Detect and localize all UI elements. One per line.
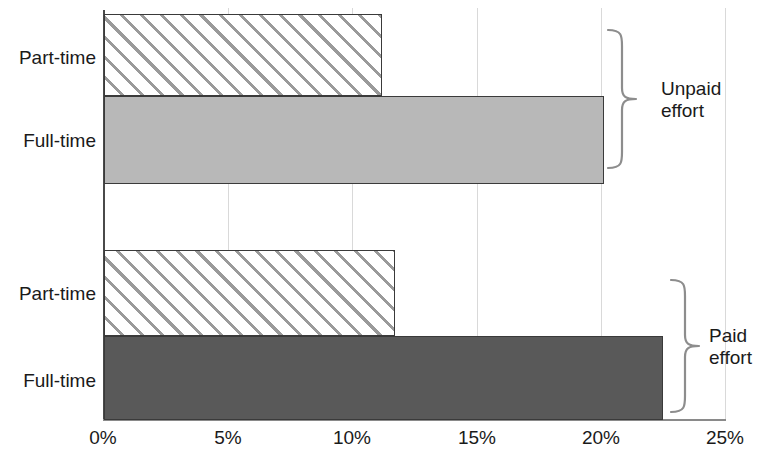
bar-chart: Part-time Full-time Part-time Full-time … <box>0 0 771 467</box>
group-label-unpaid-line1: Unpaid <box>661 78 721 100</box>
group-label-unpaid-effort: Unpaid effort <box>661 78 721 123</box>
brace-paid-effort <box>669 278 713 418</box>
group-label-paid-line1: Paid <box>709 325 752 347</box>
x-tick-label-5: 5% <box>193 428 263 447</box>
group-label-unpaid-line2: effort <box>661 100 721 122</box>
category-label-unpaid-full-time: Full-time <box>0 131 96 150</box>
bar-unpaid-full-time <box>104 96 604 184</box>
bar-paid-full-time <box>104 336 663 420</box>
group-label-paid-effort: Paid effort <box>709 325 752 370</box>
x-tick-label-25: 25% <box>690 428 760 447</box>
brace-unpaid-effort <box>606 28 650 174</box>
x-tick-label-20: 20% <box>566 428 636 447</box>
bar-unpaid-part-time <box>104 14 382 96</box>
x-tick-label-0: 0% <box>68 428 138 447</box>
group-label-paid-line2: effort <box>709 347 752 369</box>
bar-paid-part-time <box>104 250 395 336</box>
category-label-paid-full-time: Full-time <box>0 371 96 390</box>
category-label-paid-part-time: Part-time <box>0 284 96 303</box>
x-tick-label-10: 10% <box>317 428 387 447</box>
plot-area: Part-time Full-time Part-time Full-time … <box>0 0 771 467</box>
x-tick-label-15: 15% <box>442 428 512 447</box>
category-label-unpaid-part-time: Part-time <box>0 48 96 67</box>
